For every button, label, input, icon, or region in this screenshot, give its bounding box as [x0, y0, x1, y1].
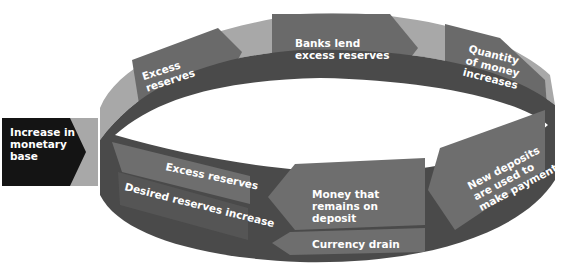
money-creation-diagram: Increase in monetary base Excess reserve… — [0, 0, 567, 268]
label-currency-drain: Currency drain — [312, 238, 400, 250]
